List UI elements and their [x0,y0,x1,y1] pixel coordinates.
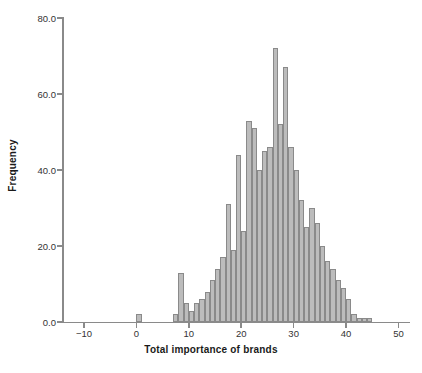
x-axis-title: Total importance of brands [0,344,422,355]
histogram-chart: Frequency 0.020.040.060.080.0 −100102030… [0,0,422,373]
x-axis-tick-label: 20 [236,328,247,339]
histogram-bar [136,314,141,322]
y-axis-tick-label: 0.0 [16,317,56,328]
y-axis-tick-label: 20.0 [16,241,56,252]
y-axis-tick-label: 80.0 [16,13,56,24]
plot-area [63,18,409,322]
histogram-bar [367,318,372,322]
x-axis-tick-label: 0 [134,328,139,339]
x-axis-tick-label: 10 [184,328,195,339]
x-axis-tick-label: −10 [76,328,92,339]
y-axis-tick-label: 60.0 [16,89,56,100]
x-axis-tick-label: 30 [288,328,299,339]
bars-layer [63,18,409,322]
y-axis-tick-label: 40.0 [16,165,56,176]
x-axis-tick-label: 50 [393,328,404,339]
x-axis-tick-label: 40 [341,328,352,339]
x-axis-tick-labels: −1001020304050 [0,328,422,344]
